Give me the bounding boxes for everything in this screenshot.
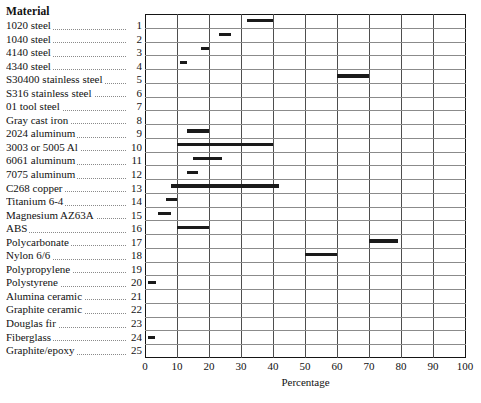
legend-material-index: 2 (127, 33, 142, 47)
range-bar (219, 33, 232, 36)
horizontal-gridline (145, 165, 466, 166)
range-bar (247, 19, 273, 22)
horizontal-gridline (145, 55, 466, 56)
legend-material-name: 4140 steel (6, 46, 53, 58)
vertical-gridline (401, 14, 402, 358)
legend-material-index: 22 (127, 303, 142, 317)
range-bar (177, 143, 273, 146)
legend-row: 7075 aluminum12 (6, 168, 142, 182)
legend-material-index: 8 (127, 114, 142, 128)
range-bar (180, 61, 186, 64)
horizontal-gridline (145, 138, 466, 139)
range-bar (337, 74, 369, 77)
legend-material-index: 17 (127, 236, 142, 250)
horizontal-gridline (145, 207, 466, 208)
legend-material-index: 18 (127, 249, 142, 263)
legend-row: Graphite ceramic22 (6, 303, 142, 317)
legend-row: Nylon 6/618 (6, 249, 142, 263)
legend-material-name: Polycarbonate (6, 236, 71, 248)
legend-material-index: 1 (127, 19, 142, 33)
horizontal-gridline (145, 303, 466, 304)
vertical-gridline (337, 14, 338, 358)
legend-material-index: 23 (127, 317, 142, 331)
legend-material-name: 01 tool steel (6, 100, 62, 112)
legend-material-name: 4340 steel (6, 60, 53, 72)
horizontal-gridline (145, 152, 466, 153)
legend-row: Polystyrene20 (6, 276, 142, 290)
legend-material-name: 6061 aluminum (6, 154, 77, 166)
range-bar (158, 212, 171, 215)
legend-row: C268 copper13 (6, 182, 142, 196)
horizontal-gridline (145, 124, 466, 125)
legend-row: 3003 or 5005 Al10 (6, 141, 142, 155)
legend-material-name: 1020 steel (6, 19, 53, 31)
legend-material-index: 10 (127, 141, 142, 155)
horizontal-gridline (145, 28, 466, 29)
legend-material-index: 7 (127, 100, 142, 114)
legend-row: 4340 steel4 (6, 60, 142, 74)
legend-material-index: 9 (127, 127, 142, 141)
legend-row: Alumina ceramic21 (6, 290, 142, 304)
legend-row: 2024 aluminum9 (6, 127, 142, 141)
horizontal-gridline (145, 97, 466, 98)
legend-material-index: 21 (127, 290, 142, 304)
legend-material-name: Graphite/epoxy (6, 344, 76, 356)
legend-material-name: Nylon 6/6 (6, 249, 52, 261)
x-tick-label: 50 (300, 360, 311, 373)
legend-material-name: Gray cast iron (6, 114, 70, 126)
legend-material-name: 3003 or 5005 Al (6, 141, 80, 153)
horizontal-gridline (145, 275, 466, 276)
legend-material-index: 19 (127, 263, 142, 277)
range-bar (193, 157, 222, 160)
legend-material-name: Alumina ceramic (6, 290, 84, 302)
legend-material-index: 12 (127, 168, 142, 182)
legend-material-name: Douglas fir (6, 317, 58, 329)
legend-material-index: 20 (127, 276, 142, 290)
legend-material-name: ABS (6, 222, 29, 234)
x-tick-label: 80 (396, 360, 407, 373)
range-bar (187, 171, 198, 174)
plot-area (145, 14, 466, 358)
legend-row: Polycarbonate17 (6, 236, 142, 250)
legend-material-name: C268 copper (6, 182, 65, 194)
legend-material-name: S30400 stainless steel (6, 73, 105, 85)
x-tick-label: 0 (142, 360, 148, 373)
x-tick-label: 30 (236, 360, 247, 373)
legend-title: Material (6, 4, 142, 19)
legend-material-index: 13 (127, 182, 142, 196)
range-bar (305, 253, 337, 256)
legend-row: 4140 steel3 (6, 46, 142, 60)
legend-material-index: 3 (127, 46, 142, 60)
range-bar (148, 281, 156, 284)
legend-row: Titanium 6-414 (6, 195, 142, 209)
range-bar (187, 129, 209, 132)
x-tick-label: 70 (364, 360, 375, 373)
vertical-gridline (305, 14, 306, 358)
horizontal-gridline (145, 289, 466, 290)
x-tick-label: 10 (172, 360, 183, 373)
legend-material-name: Fiberglass (6, 331, 53, 343)
legend-material-index: 25 (127, 344, 142, 358)
legend-material-name: 1040 steel (6, 33, 53, 45)
legend-material-name: Polypropylene (6, 263, 72, 275)
legend-material-index: 4 (127, 60, 142, 74)
legend-row: Magnesium AZ63A15 (6, 209, 142, 223)
x-tick-label: 20 (204, 360, 215, 373)
vertical-gridline (433, 14, 434, 358)
legend-material-index: 16 (127, 222, 142, 236)
horizontal-gridline (145, 193, 466, 194)
legend-row-list: 1020 steel11040 steel24140 steel34340 st… (6, 19, 142, 358)
legend-row: Polypropylene19 (6, 263, 142, 277)
legend-material-name: 7075 aluminum (6, 168, 77, 180)
legend-row: 01 tool steel7 (6, 100, 142, 114)
legend-material-name: S316 stainless steel (6, 87, 94, 99)
legend-row: Graphite/epoxy25 (6, 344, 142, 358)
horizontal-gridline (145, 69, 466, 70)
range-bar (148, 336, 154, 339)
legend-row: S316 stainless steel6 (6, 87, 142, 101)
legend-material-name: Polystyrene (6, 276, 60, 288)
legend-row: Gray cast iron8 (6, 114, 142, 128)
horizontal-gridline (145, 179, 466, 180)
horizontal-gridline (145, 344, 466, 345)
legend-material-index: 15 (127, 209, 142, 223)
